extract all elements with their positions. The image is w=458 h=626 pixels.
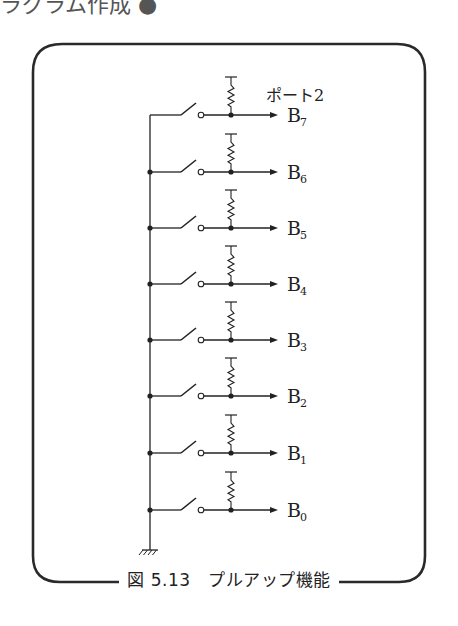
switch-icon <box>181 384 196 396</box>
junction-dot <box>147 507 152 512</box>
resistor-icon <box>228 415 234 453</box>
ground-hatch <box>148 550 152 555</box>
bit-label: B <box>287 499 301 521</box>
resistor-icon <box>228 190 234 228</box>
bit-label: B <box>287 273 301 295</box>
junction-dot <box>147 281 152 286</box>
resistor-icon <box>228 358 234 396</box>
resistor-icon <box>228 77 234 115</box>
bit-label: B <box>287 329 301 351</box>
figure-caption: 図 5.13 プルアップ機能 <box>0 566 458 591</box>
switch-contact <box>198 450 204 456</box>
bit-subscript: 4 <box>300 285 307 298</box>
switch-icon <box>181 328 196 340</box>
resistor-icon <box>228 302 234 340</box>
junction-dot <box>147 393 152 398</box>
switch-icon <box>181 441 196 453</box>
resistor-icon <box>228 246 234 284</box>
bit-row-B1: B1 <box>147 415 307 467</box>
figure-frame <box>33 44 425 582</box>
junction-dot <box>147 225 152 230</box>
caption-text: 図 5.13 プルアップ機能 <box>119 570 338 590</box>
port-label: ポート2 <box>266 86 324 105</box>
bit-subscript: 2 <box>300 397 307 410</box>
arrow-head-icon <box>270 393 278 399</box>
switch-icon <box>181 216 196 228</box>
arrow-head-icon <box>270 337 278 343</box>
bit-row-B5: B5 <box>147 190 307 242</box>
ground-hatch <box>144 550 148 555</box>
bit-label: B <box>287 217 301 239</box>
switch-icon <box>181 160 196 172</box>
switch-icon <box>181 103 196 115</box>
arrow-head-icon <box>270 450 278 456</box>
switch-contact <box>198 507 204 513</box>
junction-dot <box>147 337 152 342</box>
bit-label: B <box>287 104 301 126</box>
pullup-circuit-diagram: B7B6B5B4B3B2B1B0ポート2 <box>0 0 458 626</box>
ground-hatch <box>153 550 157 555</box>
arrow-head-icon <box>270 507 278 513</box>
arrow-head-icon <box>270 281 278 287</box>
switch-contact <box>198 393 204 399</box>
junction-dot <box>147 169 152 174</box>
bit-subscript: 7 <box>300 116 307 129</box>
switch-icon <box>181 498 196 510</box>
resistor-icon <box>228 472 234 510</box>
switch-contact <box>198 281 204 287</box>
resistor-icon <box>228 134 234 172</box>
ground-hatch <box>139 550 143 555</box>
bit-label: B <box>287 161 301 183</box>
bit-label: B <box>287 385 301 407</box>
bit-row-B6: B6 <box>147 134 307 186</box>
switch-contact <box>198 112 204 118</box>
switch-icon <box>181 272 196 284</box>
switch-contact <box>198 169 204 175</box>
bit-subscript: 1 <box>300 454 307 467</box>
bit-label: B <box>287 442 301 464</box>
arrow-head-icon <box>270 169 278 175</box>
bit-subscript: 0 <box>300 511 307 524</box>
bit-subscript: 6 <box>300 173 307 186</box>
bit-row-B2: B2 <box>147 358 307 410</box>
bit-subscript: 3 <box>300 341 307 354</box>
bit-subscript: 5 <box>300 229 307 242</box>
switch-contact <box>198 225 204 231</box>
junction-dot <box>147 450 152 455</box>
arrow-head-icon <box>270 225 278 231</box>
arrow-head-icon <box>270 112 278 118</box>
switch-contact <box>198 337 204 343</box>
bit-row-B4: B4 <box>147 246 307 298</box>
bit-row-B3: B3 <box>147 302 307 354</box>
bit-row-B0: B0 <box>147 472 307 524</box>
